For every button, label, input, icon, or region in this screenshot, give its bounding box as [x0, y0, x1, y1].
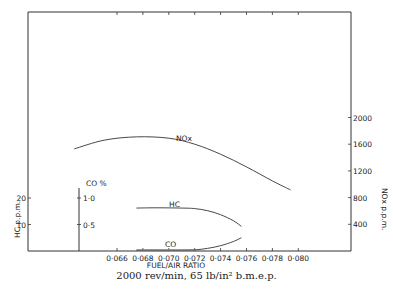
nox-tick-label: 2000 — [353, 114, 372, 123]
chart-caption: 2000 rev/min, 65 lb/in² b.m.e.p. — [0, 270, 393, 281]
x-tick-label: 0·078 — [262, 254, 284, 263]
x-tick-label: 0·080 — [288, 254, 310, 263]
co-tick-label: 1·0 — [83, 194, 95, 203]
emissions-chart: 0·0660·0680·0700·0720·0740·0760·0780·080… — [0, 0, 393, 270]
hc-curve — [136, 208, 241, 227]
nox-tick-label: 1600 — [353, 140, 372, 149]
plot-frame — [28, 12, 351, 251]
co-axis-title: CO % — [86, 179, 107, 188]
nox-axis-title: NOx p.p.m. — [380, 188, 389, 230]
nox-curve — [74, 137, 290, 190]
nox-series-label: NOx — [176, 134, 193, 143]
tick-marks — [28, 12, 351, 251]
x-tick-label: 0·066 — [106, 254, 128, 263]
co-curve — [136, 238, 241, 251]
x-axis-title: FUEL/AIR RATIO — [147, 261, 205, 270]
hc-series-label: HC — [169, 200, 180, 209]
nox-tick-label: 400 — [353, 220, 368, 229]
nox-tick-label: 1200 — [353, 167, 372, 176]
x-tick-label: 0·076 — [236, 254, 258, 263]
nox-tick-label: 800 — [353, 194, 368, 203]
co-series-label: CO — [165, 240, 176, 249]
hc-axis-title: HC p.p.m. — [13, 201, 22, 238]
data-curves — [74, 137, 290, 251]
co-tick-label: 0·5 — [83, 221, 95, 230]
tick-labels: 0·0660·0680·0700·0720·0740·0760·0780·080… — [16, 114, 372, 264]
x-tick-label: 0·074 — [210, 254, 232, 263]
